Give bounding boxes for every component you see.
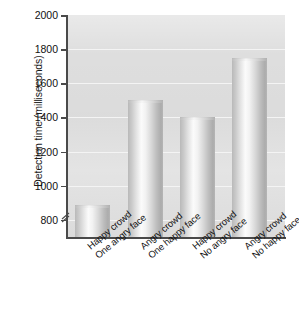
y-tick-label: 800 (18, 215, 58, 226)
y-tick-mark (61, 186, 67, 188)
y-tick-mark (61, 117, 67, 119)
y-tick-label: 2000 (18, 10, 58, 21)
y-tick-label: 1400 (18, 112, 58, 123)
y-tick-mark (61, 83, 67, 85)
y-tick-mark (61, 49, 67, 51)
y-tick-label: 1800 (18, 44, 58, 55)
y-tick-label: 1000 (18, 181, 58, 192)
axis-break-icon (60, 208, 74, 224)
gridline (68, 49, 285, 50)
y-tick-label: 1200 (18, 147, 58, 158)
y-tick-mark (61, 152, 67, 154)
y-tick-mark (61, 15, 67, 17)
y-tick-label: 1600 (18, 78, 58, 89)
bar-chart-figure: Detection time (milliseconds) 8001000120… (0, 0, 299, 320)
